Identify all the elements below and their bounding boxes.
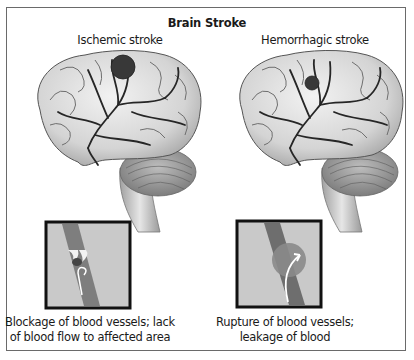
- hemorrhagic-caption: Rupture of blood vessels; leakage of blo…: [205, 315, 365, 345]
- ischemic-brain: [38, 50, 201, 232]
- bleed-lesion-icon: [305, 76, 319, 90]
- ischemic-caption: Blockage of blood vessels; lack of blood…: [5, 315, 175, 345]
- hemorrhagic-inset: [237, 221, 321, 307]
- hemorrhagic-caption-line1: Rupture of blood vessels;: [205, 315, 365, 330]
- stroke-illustration: [0, 0, 414, 360]
- hemorrhagic-brain: [240, 50, 403, 232]
- ischemic-caption-line2: of blood flow to affected area: [5, 330, 175, 345]
- hemorrhagic-caption-line2: leakage of blood: [205, 330, 365, 345]
- ischemic-inset: [46, 222, 130, 308]
- clot-lesion-icon: [111, 55, 135, 79]
- ischemic-caption-line1: Blockage of blood vessels; lack: [5, 315, 175, 330]
